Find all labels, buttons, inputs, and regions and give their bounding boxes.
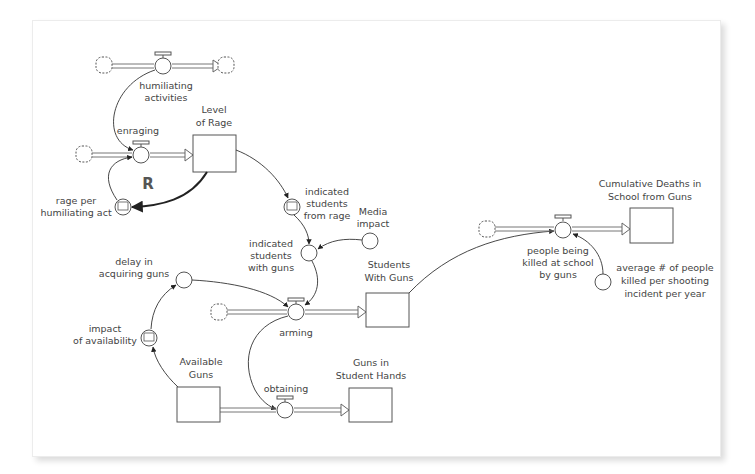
converter-rage-per-humiliating-act[interactable]: rage perhumiliating act <box>40 195 131 218</box>
reinforcing-loop-label: R <box>142 175 154 193</box>
svg-text:people beingkilled at schoolby: people beingkilled at schoolby guns <box>522 245 593 280</box>
cloud-source-icon <box>96 57 112 73</box>
valve-handle-icon <box>288 298 304 301</box>
flow-label: enraging <box>117 125 159 136</box>
valve-icon <box>277 402 293 418</box>
cloud-source-icon <box>211 304 227 320</box>
svg-text:AvailableGuns: AvailableGuns <box>179 356 222 380</box>
cloud-sink-icon <box>218 57 234 73</box>
valve-handle-icon <box>277 396 293 399</box>
svg-text:Cumulative Deaths inSchool fro: Cumulative Deaths inSchool from Guns <box>599 178 702 202</box>
valve-icon <box>133 147 149 163</box>
converter-impact-of-availability[interactable]: impactof availability <box>73 323 157 346</box>
converter-delay-in-acquiring-guns[interactable]: delay inacquiring guns <box>99 256 192 288</box>
svg-text:indicatedstudentsfrom rage: indicatedstudentsfrom rage <box>304 186 351 221</box>
flow-label: arming <box>279 327 313 338</box>
flow-humiliating-activities[interactable]: humiliatingactivities <box>112 52 222 103</box>
valve-icon <box>155 58 171 74</box>
svg-text:StudentsWith Guns: StudentsWith Guns <box>365 259 414 283</box>
svg-text:Guns inStudent Hands: Guns inStudent Hands <box>336 357 406 381</box>
stock-available-guns[interactable]: AvailableGuns <box>177 356 223 422</box>
flow-label: obtaining <box>264 383 309 394</box>
valve-handle-icon <box>555 215 571 218</box>
valve-icon <box>555 222 571 238</box>
svg-text:rage perhumiliating act: rage perhumiliating act <box>40 195 112 218</box>
converter-indicated-students-from-rage[interactable]: indicatedstudentsfrom rage <box>284 186 351 221</box>
svg-text:indicatedstudentswith guns: indicatedstudentswith guns <box>248 238 294 273</box>
svg-text:Levelof Rage: Levelof Rage <box>196 104 232 128</box>
valve-handle-icon <box>155 52 171 55</box>
cloud-source-icon <box>479 221 495 237</box>
graph-icon <box>144 333 154 341</box>
svg-text:impactof availability: impactof availability <box>73 323 137 346</box>
converter-indicated-students-with-guns[interactable]: indicatedstudentswith guns <box>248 238 317 273</box>
graph-icon <box>118 202 128 210</box>
flow-obtaining[interactable]: obtaining <box>220 383 349 418</box>
flow-people-being-killed[interactable]: people beingkilled at schoolby guns <box>495 215 630 280</box>
valve-handle-icon <box>133 141 149 144</box>
graph-icon <box>287 202 297 210</box>
svg-text:Mediaimpact: Mediaimpact <box>357 206 390 229</box>
stock-cumulative-deaths[interactable]: Cumulative Deaths inSchool from Guns <box>599 178 702 243</box>
cloud-source-icon <box>76 146 92 162</box>
flow-label: humiliatingactivities <box>139 80 192 103</box>
valve-icon <box>288 304 304 320</box>
converter-average-people-killed[interactable]: average # of peoplekilled per shootingin… <box>595 262 714 299</box>
stock-level-of-rage[interactable]: Levelof Rage <box>193 104 236 172</box>
flow-arming[interactable]: arming <box>227 298 366 338</box>
converter-media-impact[interactable]: Mediaimpact <box>357 206 390 249</box>
diagram-canvas: humiliatingactivities enraging Levelof R… <box>0 0 755 474</box>
svg-text:average # of peoplekilled per: average # of peoplekilled per shootingin… <box>616 262 713 299</box>
svg-text:delay inacquiring guns: delay inacquiring guns <box>99 256 169 279</box>
stock-students-with-guns[interactable]: StudentsWith Guns <box>365 259 414 327</box>
flow-enraging[interactable]: enraging <box>92 125 193 163</box>
